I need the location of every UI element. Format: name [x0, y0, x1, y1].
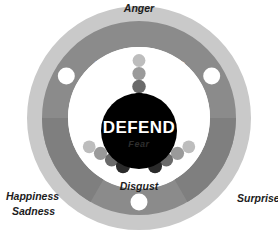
chain-lower-right-dot-2	[171, 147, 184, 160]
chain-top-dot-2	[132, 67, 145, 80]
external-label-anger: Anger	[123, 2, 155, 14]
core-sublabel: Fear	[128, 139, 149, 149]
chain-top-dot-1	[133, 54, 146, 67]
external-label-sadness: Sadness	[12, 205, 55, 217]
chain-lower-left-dot-2	[94, 147, 107, 160]
chain-lower-right-dot-1	[182, 140, 195, 153]
diagram-canvas: ACQUIRE BOND LEARN	[0, 0, 278, 236]
core-label: DEFEND	[103, 118, 175, 137]
emotion-wheel-diagram: ACQUIRE BOND LEARN	[0, 0, 278, 236]
node-upper-right	[203, 68, 220, 85]
chain-lower-left-dot-1	[83, 140, 96, 153]
external-label-disgust: Disgust	[120, 180, 159, 192]
node-bottom	[131, 194, 148, 211]
chain-top-dot-3	[132, 80, 146, 94]
external-label-happiness: Happiness	[6, 190, 59, 202]
node-upper-left	[58, 68, 75, 85]
external-label-surprise: Surprise	[237, 192, 278, 204]
